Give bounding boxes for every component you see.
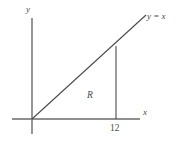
- figure-canvas: y x y = x R 12: [0, 0, 180, 145]
- line-equation-label: y = x: [147, 12, 166, 21]
- x-axis-label: x: [143, 108, 147, 117]
- region-label-r: R: [87, 91, 93, 101]
- diagonal-line-y-equals-x: [32, 15, 146, 119]
- x-tick-label-12: 12: [110, 124, 120, 134]
- y-axis-label: y: [26, 5, 30, 14]
- coordinate-plot: [0, 0, 180, 145]
